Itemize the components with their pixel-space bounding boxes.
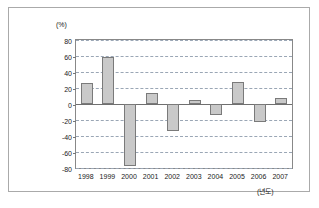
bar — [232, 82, 244, 104]
x-axis-tick-label: 1998 — [78, 173, 94, 180]
x-axis-tick-label: 2006 — [251, 173, 267, 180]
y-axis-tick-label: 60 — [64, 54, 72, 61]
y-axis-tick-label: 40 — [64, 70, 72, 77]
bar — [146, 93, 158, 104]
plot-area: 806040200-20-40-60-80 — [75, 39, 293, 169]
bar — [81, 83, 93, 104]
bar — [102, 57, 114, 104]
y-axis-tick-label: -40 — [62, 134, 72, 141]
bars-group — [76, 40, 292, 168]
figure-panel: (%) 806040200-20-40-60-80 19981999200020… — [8, 7, 310, 192]
y-axis-tick-label: -20 — [62, 118, 72, 125]
bar — [254, 104, 266, 122]
x-axis-tick-label: 2005 — [229, 173, 245, 180]
x-axis-unit-label: (년도) — [257, 186, 274, 196]
x-axis-tick-label: 2002 — [164, 173, 180, 180]
x-axis-tick-label: 2007 — [272, 173, 288, 180]
bar — [124, 104, 136, 166]
bar — [275, 98, 287, 104]
y-axis-tick-label: -80 — [62, 166, 72, 173]
x-axis-tick-label: 2004 — [208, 173, 224, 180]
y-axis-tick-label: 80 — [64, 38, 72, 45]
gridline: -80 — [76, 168, 292, 169]
x-axis-tick-label: 2003 — [186, 173, 202, 180]
x-axis-tick-label: 2000 — [121, 173, 137, 180]
x-axis-tick-labels: 1998199920002001200220032004200520062007 — [75, 173, 293, 185]
y-axis-unit-label: (%) — [56, 21, 67, 28]
y-axis-tick-label: 20 — [64, 86, 72, 93]
x-axis-tick-label: 2001 — [143, 173, 159, 180]
bar — [210, 104, 222, 115]
y-axis-tick-label: 0 — [68, 102, 72, 109]
bar — [167, 104, 179, 131]
bar — [189, 100, 201, 104]
x-axis-tick-label: 1999 — [100, 173, 116, 180]
y-axis-tick-label: -60 — [62, 150, 72, 157]
